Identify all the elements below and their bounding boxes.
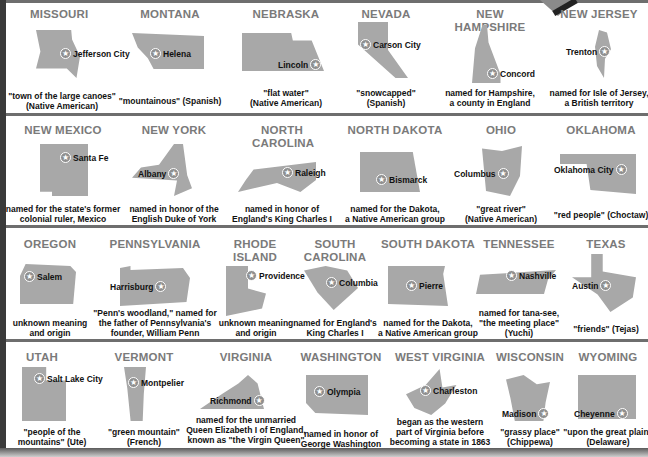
state-card-montana: MONTANA ★Helena "mountainous" (Spanish) [120, 8, 220, 108]
capital-label: ★Montpelier [128, 377, 184, 388]
name-origin: "snowcapped"(Spanish) [336, 88, 436, 108]
state-name: OREGON [10, 238, 90, 251]
capital-label: ★Olympia [314, 386, 361, 397]
capital-label: ★Charleston [420, 385, 477, 396]
star-icon: ★ [310, 59, 321, 70]
state-card-virginia: VIRGINIA ★Richmond named for the unmarri… [196, 351, 296, 447]
star-icon: ★ [616, 164, 627, 175]
state-name: NEBRASKA [236, 8, 336, 21]
star-icon: ★ [326, 277, 337, 288]
state-card-south-dakota: SOUTH DAKOTA ★Pierre named for the Dakot… [378, 238, 478, 338]
name-origin: named for the state's formercolonial rul… [0, 204, 128, 224]
star-icon: ★ [360, 39, 371, 50]
state-shape-south-carolina [304, 266, 358, 310]
capital-label: ★Bismarck [376, 174, 427, 185]
state-card-wisconsin: WISCONSIN ★Madison "grassy place"(Chippe… [492, 351, 568, 447]
bottom-border [0, 448, 648, 457]
capital-label: ★Cheyenne [574, 408, 628, 419]
state-name: VIRGINIA [196, 351, 296, 364]
state-card-ohio: OHIO ★Columbus "great river"(Native Amer… [456, 124, 546, 224]
state-name: MISSOURI [30, 8, 112, 21]
capital-label: ★Carson City [360, 39, 421, 50]
state-name: RHODE ISLAND [230, 238, 280, 264]
state-card-north-dakota: NORTH DAKOTA ★Bismarck named for the Dak… [340, 124, 450, 224]
row-divider [6, 225, 648, 228]
capital-label: ★Santa Fe [60, 152, 108, 163]
state-name: NEW MEXICO [8, 124, 118, 137]
capital-label: ★Concord [487, 68, 535, 79]
name-origin: named in honor of theEnglish Duke of Yor… [114, 204, 234, 224]
name-origin: "flat water"(Native American) [226, 88, 346, 108]
star-icon: ★ [168, 168, 179, 179]
star-icon: ★ [487, 68, 498, 79]
state-name: TEXAS [568, 238, 644, 251]
state-shape-oregon [20, 264, 76, 304]
name-origin: named for England'sKing Charles I [290, 318, 380, 338]
state-shape-vermont [124, 367, 146, 421]
capital-label: ★Columbia [326, 277, 378, 288]
state-card-washington: WASHINGTON ★Olympia named in honor ofGeo… [296, 351, 386, 447]
state-card-tennessee: TENNESSEE ★Nashville named for tana-see,… [474, 238, 564, 338]
state-name: NEW HAMPSHIRE [440, 8, 540, 34]
state-name: NEW YORK [124, 124, 224, 137]
capital-label: ★Pierre [406, 280, 443, 291]
name-origin: named in honor ofEngland's King Charles … [222, 204, 342, 224]
star-icon: ★ [538, 408, 549, 419]
state-name: UTAH [26, 351, 92, 364]
capital-label: ★Austin [572, 280, 611, 291]
state-shape-nevada [358, 22, 408, 78]
star-icon: ★ [60, 152, 71, 163]
star-icon: ★ [282, 167, 293, 178]
star-icon: ★ [406, 280, 417, 291]
state-card-missouri: MISSOURI ★Jefferson City "town of the la… [12, 8, 112, 108]
capital-label: ★Salt Lake City [34, 373, 103, 384]
name-origin: "green mountain"(French) [94, 427, 194, 447]
state-card-new-jersey: NEW JERSEY ★Trenton named for Isle of Je… [556, 8, 642, 108]
star-icon: ★ [128, 377, 139, 388]
state-name: WYOMING [570, 351, 646, 364]
state-card-rhode-island: RHODE ISLAND ★Providence unknown meaning… [216, 238, 296, 338]
state-card-oklahoma: OKLAHOMA ★Oklahoma City "red people" (Ch… [556, 124, 646, 224]
name-origin: "upon the great plain"(Delaware) [560, 427, 648, 447]
left-border [0, 0, 6, 448]
state-shape-north-dakota [360, 152, 420, 192]
state-card-utah: UTAH ★Salt Lake City "people of themount… [12, 351, 92, 447]
star-icon: ★ [60, 48, 71, 59]
row-divider [6, 339, 648, 342]
state-card-new-hampshire: NEW HAMPSHIRE ★Concord named for Hampshi… [440, 8, 540, 108]
state-name: OHIO [456, 124, 546, 137]
capital-label: ★Oklahoma City [554, 164, 627, 175]
star-icon: ★ [599, 46, 610, 57]
capital-label: ★Trenton [566, 46, 610, 57]
state-name: NORTH DAKOTA [340, 124, 450, 137]
name-origin: named for Hampshire,a county in England [430, 88, 550, 108]
name-origin: "great river"(Native American) [446, 204, 556, 224]
state-card-north-carolina: NORTH CAROLINA ★Raleigh named in honor o… [232, 124, 332, 224]
state-card-texas: TEXAS ★Austin "friends" (Tejas) [568, 238, 644, 338]
star-icon: ★ [420, 385, 431, 396]
state-name: SOUTH DAKOTA [378, 238, 478, 251]
state-card-nebraska: NEBRASKA ★Lincoln "flat water"(Native Am… [236, 8, 336, 108]
state-card-nevada: NEVADA ★Carson City "snowcapped"(Spanish… [346, 8, 426, 108]
capital-label: ★Helena [150, 48, 191, 59]
capital-label: ★Salem [24, 271, 62, 282]
state-reference-page: MISSOURI ★Jefferson City "town of the la… [0, 0, 648, 457]
name-origin: "town of the large canoes"(Native Americ… [2, 91, 122, 111]
name-origin: "Penn's woodland," named forthe father o… [90, 308, 220, 338]
capital-label: ★Nashville [506, 270, 556, 281]
capital-label: ★Providence [246, 270, 305, 281]
state-name: NORTH CAROLINA [252, 124, 312, 150]
state-name: OKLAHOMA [556, 124, 646, 137]
name-origin: unknown meaningand origin [0, 318, 100, 338]
capital-label: ★Richmond [210, 395, 265, 406]
state-name: WEST VIRGINIA [390, 351, 490, 364]
state-name: SOUTH CAROLINA [300, 238, 370, 264]
name-origin: named for Isle of Jersey,a British terri… [546, 88, 648, 108]
state-name: MONTANA [120, 8, 220, 21]
state-name: NEVADA [346, 8, 426, 21]
star-icon: ★ [150, 48, 161, 59]
star-icon: ★ [24, 271, 35, 282]
name-origin: named for the Dakota,a Native American g… [330, 204, 460, 224]
name-origin: "red people" (Choctaw) [546, 210, 648, 220]
state-card-west-virginia: WEST VIRGINIA ★Charleston began as the w… [390, 351, 490, 447]
